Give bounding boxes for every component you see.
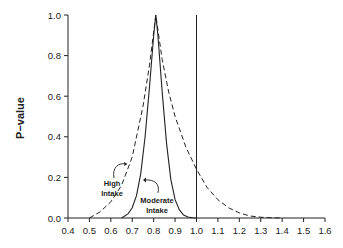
annotation-high-line2: Intake — [101, 189, 123, 198]
x-tick-label: 1.0 — [190, 225, 203, 236]
y-tick-label: 0.8 — [48, 50, 61, 61]
arrow-icon — [144, 180, 158, 193]
y-tick-label: 0.4 — [48, 131, 61, 142]
annotation-moderate-intake: Moderate Intake — [140, 178, 173, 216]
y-tick-label: 0.2 — [48, 172, 61, 183]
arrowhead-icon — [124, 162, 127, 166]
x-tick-label: 1.4 — [276, 225, 289, 236]
arrowhead-icon — [143, 178, 146, 183]
x-tick-label: 0.5 — [83, 225, 96, 236]
y-tick-label: 0.0 — [48, 213, 61, 224]
x-tick-label: 1.3 — [254, 225, 267, 236]
x-tick-label: 1.2 — [233, 225, 246, 236]
x-tick-label: 0.9 — [168, 225, 181, 236]
y-axis-label: P−value — [14, 97, 26, 139]
y-tick-label: 1.0 — [48, 10, 61, 21]
x-tick-label: 1.1 — [211, 225, 224, 236]
annotation-moderate-line2: Intake — [146, 206, 168, 215]
p-value-function-chart: 0.40.50.60.70.80.91.01.11.21.31.41.51.6 … — [0, 0, 343, 248]
x-tick-label: 0.7 — [126, 225, 139, 236]
annotation-moderate-line1: Moderate — [140, 196, 173, 205]
x-tick-label: 0.6 — [104, 225, 117, 236]
y-axis-ticks: 0.00.20.40.60.81.0 — [48, 10, 68, 224]
annotation-high-line1: High — [104, 179, 121, 188]
series-moderate-intake-solid — [122, 15, 197, 218]
x-tick-label: 0.8 — [147, 225, 160, 236]
x-tick-label: 0.4 — [61, 225, 74, 236]
x-tick-label: 1.5 — [297, 225, 310, 236]
x-tick-label: 1.6 — [318, 225, 331, 236]
y-tick-label: 0.6 — [48, 91, 61, 102]
x-axis-ticks: 0.40.50.60.70.80.91.01.11.21.31.41.51.6 — [61, 218, 331, 236]
